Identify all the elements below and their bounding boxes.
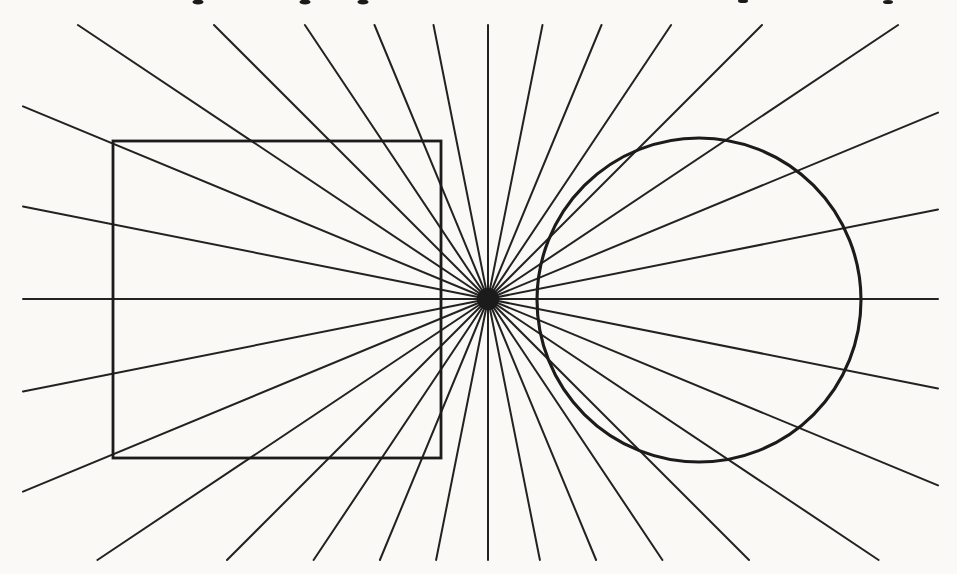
center-dot [477, 288, 499, 310]
radial-line [214, 25, 488, 299]
cropped-text-fragment [193, 0, 204, 5]
cropped-text-fragment [738, 0, 748, 3]
cropped-text-fragment [883, 0, 893, 4]
radial-line [227, 299, 488, 560]
radial-line [380, 299, 488, 560]
radial-line [488, 299, 749, 560]
radial-line [488, 299, 938, 485]
radial-line [23, 106, 488, 299]
cropped-text-fragment [300, 0, 311, 5]
orbison-illusion-figure [0, 0, 957, 574]
radial-line [375, 25, 489, 299]
book-page-figure [0, 0, 957, 574]
radial-line [23, 299, 488, 492]
radial-line [488, 113, 938, 299]
radial-line [488, 25, 602, 299]
radial-line [488, 25, 762, 299]
cropped-text-fragment [358, 0, 369, 5]
